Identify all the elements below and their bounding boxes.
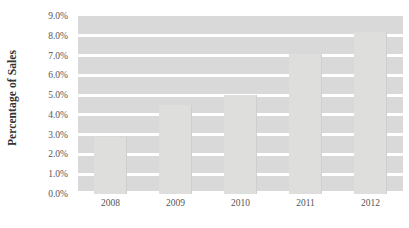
y-axis-tick-label: 2.0% (48, 149, 68, 159)
y-axis-tick-label: 0.0% (48, 189, 68, 199)
y-axis-tick-label: 1.0% (48, 169, 68, 179)
x-axis-tick-label: 2010 (231, 198, 250, 208)
bar-2010[interactable] (224, 95, 257, 194)
x-axis-tick-label: 2011 (296, 198, 315, 208)
bar-slot (289, 16, 322, 194)
y-axis-tick-label: 3.0% (48, 130, 68, 140)
bar-slot (224, 16, 257, 194)
plot-area (78, 16, 403, 194)
bar-slot (354, 16, 387, 194)
bars-layer (78, 16, 403, 194)
y-axis-tick-label: 6.0% (48, 70, 68, 80)
y-axis-title-label: Percentage of Sales (6, 50, 18, 146)
y-axis-tick-label: 5.0% (48, 90, 68, 100)
bar-2011[interactable] (289, 54, 322, 194)
bar-chart: Percentage of Sales 0.0%1.0%2.0%3.0%4.0%… (0, 0, 409, 228)
x-axis-tick-label: 2009 (166, 198, 185, 208)
x-axis-tick-labels: 20082009201020112012 (78, 198, 403, 216)
y-axis-tick-label: 7.0% (48, 51, 68, 61)
bar-slot (94, 16, 127, 194)
y-axis-title: Percentage of Sales (0, 0, 24, 196)
bar-slot (159, 16, 192, 194)
bar-2008[interactable] (94, 137, 127, 194)
bar-2012[interactable] (354, 32, 387, 194)
bar-2009[interactable] (159, 105, 192, 194)
y-axis-tick-labels: 0.0%1.0%2.0%3.0%4.0%5.0%6.0%7.0%8.0%9.0% (26, 10, 72, 194)
y-axis-tick-label: 4.0% (48, 110, 68, 120)
x-axis-tick-label: 2008 (101, 198, 120, 208)
x-axis-tick-label: 2012 (361, 198, 380, 208)
y-axis-tick-label: 9.0% (48, 11, 68, 21)
y-axis-tick-label: 8.0% (48, 31, 68, 41)
